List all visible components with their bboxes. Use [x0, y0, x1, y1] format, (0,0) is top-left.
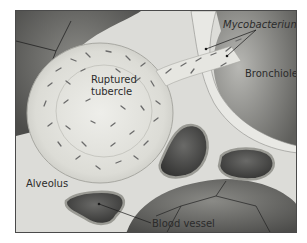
label-alveolus: Alveolus [26, 178, 68, 189]
lung-tissue-illustration [16, 11, 297, 233]
label-tubercle: tubercle [91, 86, 132, 97]
label-mycobacterium: Mycobacterium [223, 19, 297, 30]
illustration-frame: Mycobacterium Bronchiole Ruptured tuberc… [15, 10, 297, 233]
ruptured-tubercle [27, 43, 173, 183]
label-bronchiole: Bronchiole [245, 68, 297, 79]
blood-vessel-right [219, 149, 274, 180]
label-blood-vessel: Blood vessel [152, 218, 215, 229]
label-ruptured: Ruptured [91, 74, 137, 85]
